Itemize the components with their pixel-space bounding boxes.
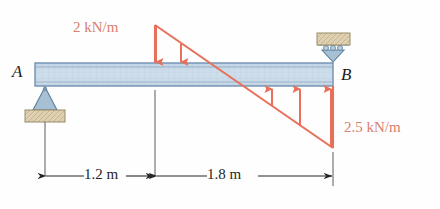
support-b-roller — [317, 33, 350, 62]
node-label-a: A — [12, 62, 22, 82]
support-a-pin — [25, 87, 65, 176]
roller-wheel-icon — [324, 46, 329, 51]
roller-wheel-icon — [331, 46, 336, 51]
load-label-2-5kn: 2.5 kN/m — [344, 119, 401, 136]
dimension-label-1-8m: 1.8 m — [207, 166, 241, 183]
support-a-base-block — [25, 110, 65, 122]
beam-hatch — [35, 63, 333, 86]
support-b-base-block — [317, 33, 350, 45]
downward-load-arrows — [156, 27, 181, 62]
roller-wheel-icon — [338, 46, 343, 51]
load-label-2kn: 2 kN/m — [73, 19, 118, 36]
beam — [35, 63, 333, 86]
roller-triangle-icon — [322, 50, 344, 62]
beam-diagram-figure: A B 2 kN/m 2.5 kN/m 1.2 m 1.8 m — [0, 0, 440, 209]
pin-hinge-icon — [43, 87, 47, 91]
dimension-label-1-2m: 1.2 m — [84, 166, 118, 183]
node-label-b: B — [341, 65, 351, 85]
upward-load-arrows — [272, 89, 331, 147]
